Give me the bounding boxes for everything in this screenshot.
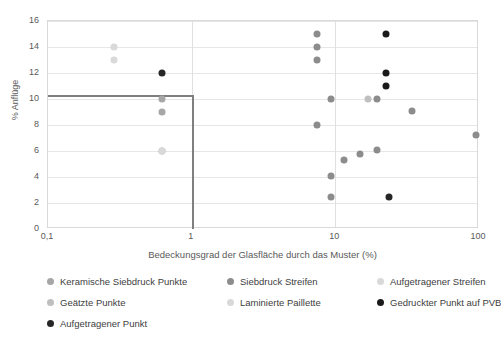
- data-point: [382, 70, 389, 77]
- legend-marker-icon: [47, 299, 54, 306]
- data-point: [327, 96, 334, 103]
- data-point: [472, 132, 479, 139]
- threshold-line-horizontal: [48, 95, 194, 97]
- data-point: [327, 193, 334, 200]
- x-axis-tick-label: 100: [458, 232, 498, 241]
- legend-item[interactable]: Laminierte Paillette: [227, 297, 321, 308]
- legend-marker-icon: [377, 278, 384, 285]
- legend-item-label: Keramische Siebdruck Punkte: [60, 276, 187, 287]
- y-axis-tick-label: 8: [3, 120, 39, 129]
- plot-area: [47, 20, 478, 228]
- x-axis-title: Bedeckungsgrad der Glasfläche durch das …: [47, 249, 478, 260]
- data-point: [158, 148, 165, 155]
- legend-item-label: Siebdruck Streifen: [240, 276, 318, 287]
- gridline-horizontal: [48, 151, 477, 152]
- legend-item[interactable]: Geätzte Punkte: [47, 297, 125, 308]
- y-axis-tick-label: 6: [3, 146, 39, 155]
- x-axis-tick-label: 0,1: [27, 232, 67, 241]
- data-point: [313, 122, 320, 129]
- y-axis-tick-label: 10: [3, 94, 39, 103]
- legend-marker-icon: [227, 299, 234, 306]
- gridline-horizontal: [48, 177, 477, 178]
- data-point: [356, 150, 363, 157]
- gridline-vertical: [335, 21, 336, 227]
- x-axis-tick-label: 1: [171, 232, 211, 241]
- x-axis-tick-label: 10: [314, 232, 354, 241]
- chart-legend: Keramische Siebdruck PunkteSiebdruck Str…: [47, 276, 487, 338]
- y-axis-tick-label: 2: [3, 198, 39, 207]
- data-point: [374, 96, 381, 103]
- gridline-horizontal: [48, 99, 477, 100]
- data-point: [158, 70, 165, 77]
- legend-item[interactable]: Siebdruck Streifen: [227, 276, 318, 287]
- data-point: [340, 157, 347, 164]
- data-point: [313, 57, 320, 64]
- legend-item[interactable]: Gedruckter Punkt auf PVB: [377, 297, 501, 308]
- data-point: [382, 83, 389, 90]
- legend-marker-icon: [377, 299, 384, 306]
- gridline-horizontal: [48, 73, 477, 74]
- data-point: [313, 44, 320, 51]
- legend-marker-icon: [47, 320, 54, 327]
- data-point: [327, 172, 334, 179]
- data-point: [111, 44, 118, 51]
- legend-marker-icon: [47, 278, 54, 285]
- gridline-horizontal: [48, 21, 477, 22]
- data-point: [365, 96, 372, 103]
- legend-item-label: Laminierte Paillette: [240, 297, 321, 308]
- y-axis-title: % Anflüge: [10, 55, 20, 145]
- y-axis-tick-label: 16: [3, 16, 39, 25]
- data-point: [158, 109, 165, 116]
- data-point: [408, 107, 415, 114]
- legend-item-label: Gedruckter Punkt auf PVB: [390, 297, 501, 308]
- data-point: [111, 57, 118, 64]
- y-axis-tick-label: 12: [3, 68, 39, 77]
- legend-item[interactable]: Keramische Siebdruck Punkte: [47, 276, 187, 287]
- legend-item[interactable]: Aufgetragener Streifen: [377, 276, 486, 287]
- data-point: [385, 193, 392, 200]
- legend-marker-icon: [227, 278, 234, 285]
- data-point: [374, 146, 381, 153]
- legend-item-label: Aufgetragener Punkt: [60, 318, 147, 329]
- legend-item-label: Aufgetragener Streifen: [390, 276, 486, 287]
- gridline-horizontal: [48, 203, 477, 204]
- legend-item[interactable]: Aufgetragener Punkt: [47, 318, 147, 329]
- y-axis-tick-label: 14: [3, 42, 39, 51]
- gridline-horizontal: [48, 125, 477, 126]
- y-axis-tick-label: 4: [3, 172, 39, 181]
- data-point: [382, 31, 389, 38]
- data-point: [313, 31, 320, 38]
- legend-item-label: Geätzte Punkte: [60, 297, 125, 308]
- data-point: [158, 96, 165, 103]
- threshold-line-vertical: [192, 95, 194, 229]
